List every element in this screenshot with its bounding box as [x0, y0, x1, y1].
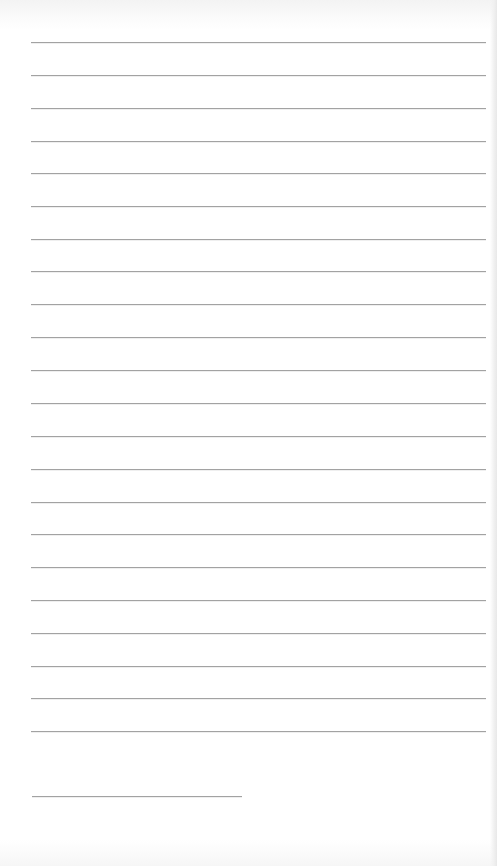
ruled-line [31, 436, 486, 437]
ruled-line [31, 42, 486, 43]
ruled-line [31, 370, 486, 371]
lined-paper-page [0, 0, 497, 866]
ruled-line [31, 731, 486, 732]
ruled-line [31, 75, 486, 76]
ruled-line [31, 534, 486, 535]
ruled-line [31, 469, 486, 470]
ruled-line [31, 141, 486, 142]
ruled-line [31, 271, 486, 272]
page-edge-shadow [490, 0, 497, 866]
ruled-line [31, 173, 486, 174]
ruled-line [31, 108, 486, 109]
ruled-line [31, 337, 486, 338]
ruled-line [31, 567, 486, 568]
ruled-line [31, 239, 486, 240]
ruled-line [31, 206, 486, 207]
ruled-line [31, 633, 486, 634]
ruled-line [31, 304, 486, 305]
short-signature-line [32, 796, 242, 797]
ruled-line [31, 600, 486, 601]
ruled-line [31, 502, 486, 503]
ruled-line [31, 403, 486, 404]
ruled-line [31, 666, 486, 667]
ruled-line [31, 698, 486, 699]
